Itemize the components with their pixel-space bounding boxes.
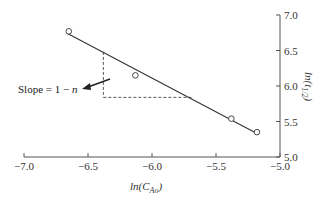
data-point (133, 73, 139, 79)
x-tick-label: −7.0 (14, 160, 34, 172)
data-point (66, 29, 72, 35)
x-axis-label: ln(CAo) (130, 180, 162, 195)
y-label-main: ln(t (302, 72, 315, 88)
x-label-main: ln(C (130, 180, 150, 193)
x-label-close: ) (157, 180, 162, 193)
slope-triangle (103, 52, 191, 97)
y-label-close: ) (302, 97, 315, 102)
slope-text: Slope = 1 − (18, 83, 72, 95)
data-points (66, 29, 260, 135)
data-point (254, 129, 260, 135)
y-tick-label: 5.5 (284, 116, 298, 128)
slope-variable: n (72, 83, 78, 95)
y-ticks: 5.05.56.06.57.0 (276, 9, 298, 163)
y-tick-label: 6.5 (284, 45, 298, 57)
x-label-subscript: Ao (149, 186, 159, 195)
chart: −7.0−6.5−6.0−5.5−5.0 5.05.56.06.57.0 Slo… (0, 0, 331, 202)
x-tick-label: −5.5 (206, 160, 226, 172)
data-point (229, 116, 235, 122)
arrow-icon (82, 79, 110, 90)
slope-annotation: Slope = 1 − n (18, 83, 78, 95)
y-tick-label: 5.0 (284, 151, 298, 163)
y-axis-label: ln(t1/2) (300, 72, 315, 102)
x-tick-label: −6.5 (78, 160, 98, 172)
x-tick-label: −6.0 (142, 160, 162, 172)
y-tick-label: 7.0 (284, 9, 298, 21)
x-ticks: −7.0−6.5−6.0−5.5−5.0 (14, 153, 290, 172)
y-label-subscript: 1/2 (300, 87, 309, 97)
y-tick-label: 6.0 (284, 80, 298, 92)
